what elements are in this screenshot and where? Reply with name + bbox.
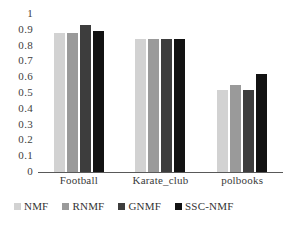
legend-item-gnmf[interactable]: GNMF [118, 200, 161, 212]
chart-legend: NMFRNMFGNMFSSC-NMF [14, 198, 282, 214]
bar-chart: 00.10.20.30.40.50.60.70.80.91 FootballKa… [0, 0, 290, 225]
bar-group-bars [120, 14, 202, 172]
legend-label: RNMF [72, 200, 104, 212]
x-axis-category-label: Karate_club [120, 174, 202, 187]
y-axis-tick-label: 0.6 [18, 71, 33, 82]
x-axis-category-labels: FootballKarate_clubpolbooks [38, 174, 283, 192]
y-axis-tick-label: 0.2 [18, 134, 33, 145]
legend-swatch-icon [14, 203, 21, 210]
bar-gnmf-football[interactable] [80, 25, 91, 172]
y-axis-tick-label: 0.1 [18, 150, 33, 161]
legend-item-ssc-nmf[interactable]: SSC-NMF [175, 200, 233, 212]
y-axis-tick-label: 0.4 [18, 103, 33, 114]
bar-group-bars [38, 14, 120, 172]
legend-swatch-icon [175, 203, 182, 210]
bar-gnmf-polbooks[interactable] [243, 90, 254, 172]
bar-ssc-nmf-polbooks[interactable] [256, 74, 267, 172]
x-axis-category-label: polbooks [201, 174, 283, 187]
x-axis-category-label: Football [38, 174, 120, 187]
bar-ssc-nmf-karate-club[interactable] [174, 39, 185, 172]
plot-area [38, 14, 283, 172]
legend-item-nmf[interactable]: NMF [14, 200, 48, 212]
y-axis-tick-label: 0.7 [18, 55, 33, 66]
y-axis-tick-label: 0.8 [18, 40, 33, 51]
legend-swatch-icon [118, 203, 125, 210]
bar-nmf-football[interactable] [54, 33, 65, 172]
y-axis-tick-label: 0 [27, 166, 33, 177]
bar-rnmf-football[interactable] [67, 33, 78, 172]
legend-swatch-icon [62, 203, 69, 210]
legend-item-rnmf[interactable]: RNMF [62, 200, 104, 212]
bar-rnmf-karate-club[interactable] [148, 39, 159, 172]
y-axis-tick-label: 1 [27, 8, 33, 19]
bar-ssc-nmf-football[interactable] [93, 31, 104, 172]
legend-label: SSC-NMF [185, 200, 233, 212]
y-axis-tick-label: 0.5 [18, 87, 33, 98]
bar-nmf-polbooks[interactable] [217, 90, 228, 172]
bar-gnmf-karate-club[interactable] [161, 39, 172, 172]
bar-nmf-karate-club[interactable] [135, 39, 146, 172]
bar-group [201, 14, 283, 172]
y-axis-tick-labels: 00.10.20.30.40.50.60.70.80.91 [0, 0, 36, 186]
bar-group [38, 14, 120, 172]
y-axis-tick-label: 0.9 [18, 24, 33, 35]
y-axis-tick-label: 0.3 [18, 119, 33, 130]
bar-rnmf-polbooks[interactable] [230, 85, 241, 172]
legend-label: NMF [24, 200, 48, 212]
legend-label: GNMF [128, 200, 161, 212]
x-axis-line [38, 172, 283, 173]
bar-group-bars [201, 14, 283, 172]
bar-group [120, 14, 202, 172]
